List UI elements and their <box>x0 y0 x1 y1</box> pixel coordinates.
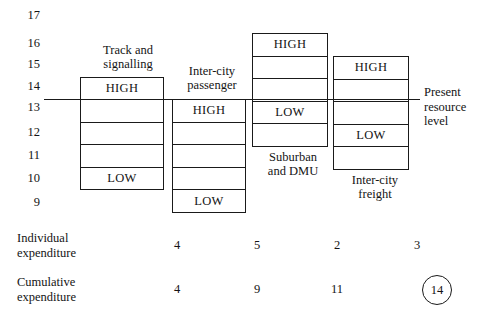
bar-cell-empty <box>173 123 245 146</box>
bar-track-and-signalling: HIGHLOW <box>80 77 164 190</box>
bar-cell-empty <box>81 100 163 122</box>
bar-cell-empty <box>253 57 327 80</box>
bar-cell-high: HIGH <box>81 78 163 100</box>
y-axis-tick: 12 <box>14 126 40 139</box>
cumulative-expenditure-value: 4 <box>157 282 197 297</box>
bar-cell-empty <box>81 123 163 145</box>
bar-cell-empty <box>173 168 245 191</box>
bar-cell-high: HIGH <box>334 57 408 80</box>
bar-cell-empty <box>81 145 163 167</box>
y-axis-tick: 15 <box>14 58 40 71</box>
cumulative-expenditure-label: Cumulative expenditure <box>17 275 76 304</box>
bar-cell-low: LOW <box>81 168 163 189</box>
present-resource-level-line <box>44 99 420 100</box>
bar-cell-empty <box>334 102 408 125</box>
bar-caption-track-and-signalling: Track and signalling <box>86 43 170 71</box>
bar-cell-empty <box>253 124 327 146</box>
present-resource-level-label: Present resource level <box>424 85 466 129</box>
individual-expenditure-label: Individual expenditure <box>17 231 76 260</box>
individual-expenditure-value: 5 <box>237 238 277 253</box>
y-axis-tick: 11 <box>14 149 40 162</box>
y-axis-tick: 10 <box>14 172 40 185</box>
individual-expenditure-value: 4 <box>157 238 197 253</box>
bar-caption-inter-city-passenger: Inter-city passenger <box>175 64 249 92</box>
bar-cell-high: HIGH <box>173 100 245 123</box>
bar-inter-city-passenger: HIGHLOW <box>172 99 246 213</box>
bar-caption-inter-city-freight: Inter-city freight <box>337 173 413 201</box>
bar-cell-low: LOW <box>173 190 245 212</box>
bar-cell-low: LOW <box>334 125 408 148</box>
cumulative-expenditure-value: 9 <box>237 282 277 297</box>
cumulative-total-circled: 14 <box>422 275 452 305</box>
bar-cell-empty <box>334 147 408 169</box>
y-axis-tick: 9 <box>14 196 40 209</box>
bar-suburban-and-dmu: HIGHLOW <box>252 33 328 147</box>
y-axis-tick: 13 <box>14 101 40 114</box>
bar-cell-high: HIGH <box>253 34 327 57</box>
individual-expenditure-value: 3 <box>397 238 437 253</box>
bar-inter-city-freight: HIGHLOW <box>333 56 409 170</box>
y-axis-tick: 14 <box>14 80 40 93</box>
resource-allocation-chart: 17161514131211109 Track and signallingHI… <box>0 0 481 313</box>
y-axis-tick: 16 <box>14 37 40 50</box>
y-axis-tick: 17 <box>14 9 40 22</box>
cumulative-expenditure-value: 11 <box>317 282 357 297</box>
individual-expenditure-value: 2 <box>317 238 357 253</box>
bar-cell-low: LOW <box>253 102 327 125</box>
bar-caption-suburban-and-dmu: Suburban and DMU <box>255 150 331 178</box>
bar-cell-empty <box>173 145 245 168</box>
